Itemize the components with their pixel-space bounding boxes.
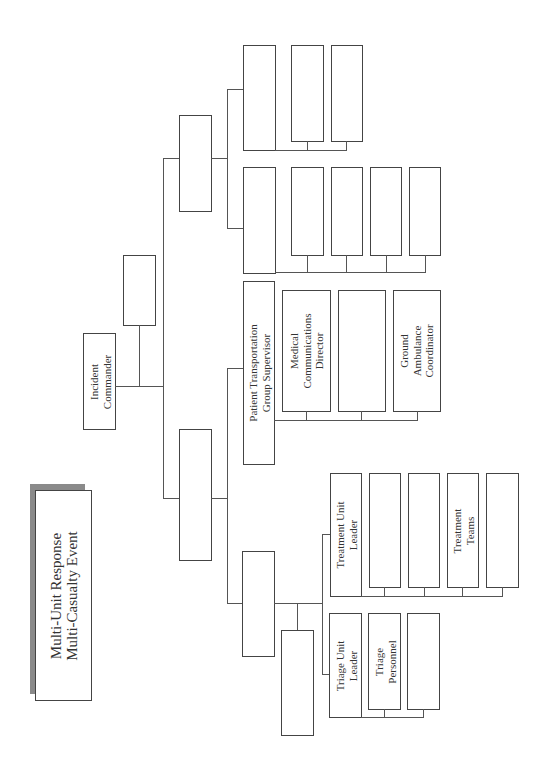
connector	[211, 498, 227, 499]
chart-title-box: Multi-Unit Response Multi-Casualty Event	[35, 490, 92, 701]
medical-group-staff-box	[281, 630, 314, 736]
connector	[346, 255, 347, 272]
connector	[227, 89, 228, 229]
upper-section-box	[179, 115, 212, 212]
triage-member-box	[407, 613, 440, 710]
tt-line-1: Treatment	[451, 508, 464, 553]
patient-transportation-supervisor-box: Patient Transportation Group Supervisor	[243, 281, 275, 465]
medical-communications-director-box: Medical Communications Director	[282, 290, 331, 412]
command-staff-box	[123, 255, 156, 326]
connector	[361, 717, 424, 718]
upper-row1-member-box	[291, 45, 324, 142]
mcd-label: Medical Communications Director	[288, 313, 326, 388]
tul-label: Treatment Unit Leader	[334, 501, 359, 568]
tul-line-1: Treatment Unit	[334, 501, 347, 568]
pt-supervisor-label: Patient Transportation Group Supervisor	[247, 324, 272, 421]
connector	[227, 228, 243, 229]
connector	[227, 368, 243, 369]
pt-line-2: Group Supervisor	[259, 324, 272, 421]
tp-line-2: Personnel	[385, 640, 398, 683]
lower-section-box	[179, 429, 212, 561]
gac-line-3: Coordinator	[423, 324, 436, 377]
connector	[306, 411, 307, 420]
medical-group-supervisor-box	[242, 551, 275, 657]
connector	[423, 709, 424, 717]
connector	[307, 141, 308, 150]
connector	[424, 587, 425, 596]
upper-row1-leader-box	[243, 45, 276, 151]
pt-line-1: Patient Transportation	[247, 324, 260, 421]
ic-line-2: Commander	[100, 354, 113, 408]
connector	[163, 158, 164, 499]
connector	[274, 420, 418, 421]
connector	[163, 498, 179, 499]
treatment-teams-label: Treatment Teams	[451, 508, 476, 553]
pt-blank-member-box	[338, 290, 386, 412]
chart-title: Multi-Unit Response Multi-Casualty Event	[48, 531, 80, 661]
connector	[275, 272, 426, 273]
treatment-unit-leader-box: Treatment Unit Leader	[330, 473, 362, 597]
connector	[139, 325, 140, 386]
gac-label: Ground Ambulance Coordinator	[398, 324, 436, 377]
incident-commander-label: Incident Commander	[87, 354, 112, 408]
connector	[227, 603, 243, 604]
mcd-line-3: Director	[313, 313, 326, 388]
ic-line-1: Incident	[87, 354, 100, 408]
title-line-1: Multi-Unit Response	[48, 531, 64, 661]
upper-row1-member-box	[331, 45, 363, 142]
connector	[163, 158, 179, 159]
treatment-member-box	[408, 473, 440, 588]
triage-personnel-box: Triage Personnel	[368, 613, 401, 710]
connector	[346, 141, 347, 150]
trl-line-1: Triage Unit	[333, 640, 346, 691]
connector	[227, 89, 243, 90]
gac-line-2: Ambulance	[411, 324, 424, 377]
connector	[502, 587, 503, 596]
connector	[115, 386, 163, 387]
incident-commander-box: Incident Commander	[83, 333, 116, 430]
tp-line-1: Triage	[372, 640, 385, 683]
connector	[462, 587, 463, 596]
mcd-line-2: Communications	[300, 313, 313, 388]
treatment-teams-box: Treatment Teams	[447, 473, 479, 588]
connector	[322, 534, 323, 675]
gac-line-1: Ground	[398, 324, 411, 377]
triage-personnel-label: Triage Personnel	[372, 640, 397, 683]
upper-row2-leader-box	[243, 167, 276, 274]
connector	[384, 709, 385, 717]
connector	[297, 603, 298, 630]
treatment-member-box	[486, 473, 519, 588]
ground-ambulance-coordinator-box: Ground Ambulance Coordinator	[393, 290, 441, 412]
connector	[307, 255, 308, 272]
trl-line-2: Leader	[346, 640, 359, 691]
tt-line-2: Teams	[463, 508, 476, 553]
connector	[361, 411, 362, 420]
connector	[386, 255, 387, 272]
upper-row2-member-box	[409, 167, 441, 256]
title-line-2: Multi-Casualty Event	[64, 531, 80, 661]
upper-row2-member-box	[331, 167, 363, 256]
connector	[211, 158, 227, 159]
connector	[417, 411, 418, 420]
connector	[425, 255, 426, 272]
connector	[275, 150, 347, 151]
upper-row2-member-box	[370, 167, 402, 256]
triage-leader-label: Triage Unit Leader	[333, 640, 358, 691]
connector	[384, 587, 385, 596]
treatment-member-box	[369, 473, 401, 588]
connector	[227, 368, 228, 604]
mcd-line-1: Medical	[288, 313, 301, 388]
connector	[322, 534, 330, 535]
triage-unit-leader-box: Triage Unit Leader	[329, 613, 362, 718]
tul-line-2: Leader	[346, 501, 359, 568]
connector	[361, 596, 503, 597]
upper-row2-member-box	[291, 167, 324, 256]
